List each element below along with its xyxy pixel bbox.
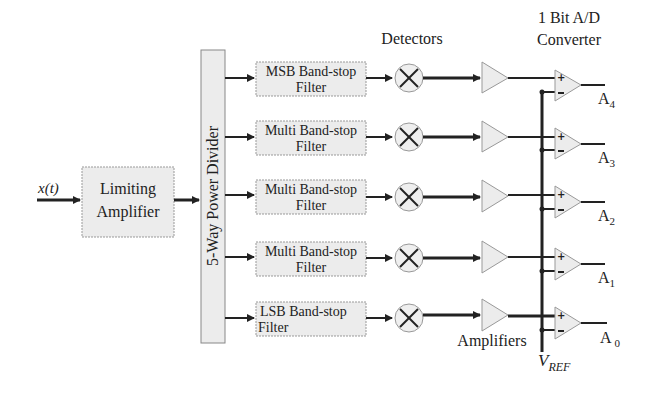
filter-label-2: Filter [258, 320, 289, 335]
detector-mixer-icon [395, 244, 423, 272]
converter-header-1: 1 Bit A/D [538, 9, 600, 26]
row-3: Multi Band-stop Filter + A3 [225, 121, 616, 169]
svg-text:+: + [557, 251, 565, 262]
limiting-amplifier-label-1: Limiting [100, 180, 156, 198]
power-divider-label: 5-Way Power Divider [204, 125, 222, 266]
output-label: A0 [600, 329, 621, 349]
detector-mixer-icon [395, 64, 423, 92]
limiting-amplifier-label-2: Amplifier [96, 203, 160, 221]
svg-text:+: + [557, 131, 565, 142]
output-label: A3 [598, 149, 616, 169]
filter-label-1: LSB Band-stop [260, 304, 347, 319]
filter-label-1: Multi Band-stop [265, 182, 357, 197]
svg-text:+: + [557, 72, 565, 83]
detector-mixer-icon [395, 304, 423, 332]
row-2: Multi Band-stop Filter + A2 [225, 180, 615, 227]
amplifier-triangle-icon [482, 299, 508, 331]
amplifier-triangle-icon [482, 241, 508, 273]
filter-label-1: Multi Band-stop [265, 123, 357, 138]
amplifier-triangle-icon [482, 180, 508, 212]
filter-label-2: Filter [296, 198, 327, 213]
detector-mixer-icon [395, 123, 423, 151]
output-label: A4 [598, 90, 616, 110]
filter-label-1: Multi Band-stop [265, 244, 357, 259]
vref-label: VREF [538, 351, 571, 374]
filter-label-2: Filter [296, 260, 327, 275]
converter-header-2: Converter [537, 31, 602, 48]
filter-label-2: Filter [296, 139, 327, 154]
filter-label-2: Filter [296, 80, 327, 95]
amplifiers-label: Amplifiers [457, 332, 526, 350]
detector-mixer-icon [395, 183, 423, 211]
output-label: A2 [598, 207, 615, 227]
filter-label-1: MSB Band-stop [266, 64, 357, 79]
output-label: A1 [598, 269, 615, 289]
row-0: LSB Band-stop Filter + A0 [225, 299, 621, 349]
row-4: MSB Band-stop Filter + A4 [225, 62, 616, 110]
amplifier-triangle-icon [482, 62, 508, 93]
detectors-header: Detectors [381, 30, 442, 47]
row-1: Multi Band-stop Filter + A1 [225, 241, 615, 289]
limiting-amplifier-block [82, 167, 174, 237]
svg-text:+: + [557, 189, 565, 200]
amplifier-triangle-icon [482, 121, 508, 152]
input-signal-label: x(t) [37, 180, 59, 197]
adc-block-diagram: x(t) Limiting Amplifier 5-Way Power Divi… [0, 0, 654, 394]
svg-text:+: + [557, 310, 565, 321]
